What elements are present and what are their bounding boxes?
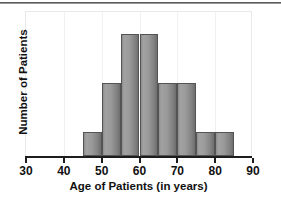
x-tick-60 [139,158,141,163]
bar [158,83,177,156]
x-tick-label-40: 40 [44,164,84,178]
x-tick-label-80: 80 [195,164,235,178]
plot-area [25,11,252,157]
x-tick-label-30: 30 [6,164,46,178]
bar [177,83,196,156]
bar [140,34,159,156]
bar-series [26,12,251,156]
x-tick-label-70: 70 [157,164,197,178]
bar [121,34,140,156]
histogram-figure: 30405060708090 Age of Patients (in years… [0,0,281,200]
bar [215,132,234,156]
x-tick-label-50: 50 [82,164,122,178]
page-top-rule [0,2,281,4]
bar [196,132,215,156]
x-tick-50 [101,158,103,163]
x-tick-30 [25,158,27,163]
x-tick-40 [63,158,65,163]
bar [83,132,102,156]
x-axis-title: Age of Patients (in years) [25,180,252,192]
x-tick-80 [214,158,216,163]
x-tick-90 [252,158,254,163]
bar [102,83,121,156]
x-tick-70 [176,158,178,163]
x-tick-label-60: 60 [120,164,160,178]
y-axis-title: Number of Patients [17,12,29,152]
x-tick-label-90: 90 [233,164,273,178]
